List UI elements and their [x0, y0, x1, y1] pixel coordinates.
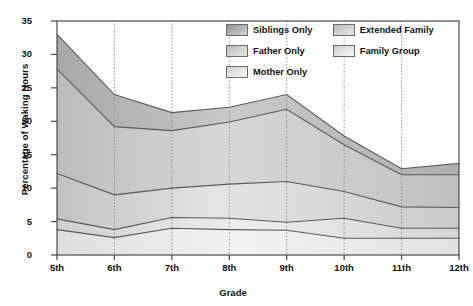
legend-swatch-siblings-only	[226, 24, 248, 36]
legend-swatch-father-only	[226, 45, 248, 57]
y-tick-label-10: 10	[8, 182, 32, 193]
chart-legend: Siblings Only Father Only Mother Only Ex…	[226, 20, 448, 82]
y-tick-label-0: 0	[8, 249, 32, 260]
legend-label-father-only: Father Only	[253, 46, 305, 56]
legend-label-family-group: Family Group	[360, 46, 420, 56]
legend-label-extended-family: Extended Family	[360, 25, 434, 35]
legend-item-family-group: Family Group	[333, 41, 448, 62]
y-tick-label-20: 20	[8, 115, 32, 126]
legend-item-father-only: Father Only	[226, 41, 327, 62]
x-tick-label-9th: 9th	[267, 262, 307, 273]
legend-label-siblings-only: Siblings Only	[253, 25, 312, 35]
x-tick-marks	[57, 255, 459, 260]
x-tick-label-7th: 7th	[152, 262, 192, 273]
x-tick-label-11th: 11th	[382, 262, 422, 273]
legend-item-extended-family: Extended Family	[333, 20, 448, 41]
x-tick-label-10th: 10th	[324, 262, 364, 273]
x-tick-label-5th: 5th	[37, 262, 77, 273]
legend-item-siblings-only: Siblings Only	[226, 20, 327, 41]
y-tick-marks	[51, 21, 57, 255]
y-tick-label-35: 35	[8, 15, 32, 26]
x-tick-label-12th: 12th	[439, 262, 473, 273]
legend-label-mother-only: Mother Only	[253, 67, 307, 77]
y-tick-label-15: 15	[8, 149, 32, 160]
x-axis-label: Grade	[0, 287, 466, 298]
legend-swatch-family-group	[333, 45, 355, 57]
legend-swatch-mother-only	[226, 66, 248, 78]
legend-item-mother-only: Mother Only	[226, 61, 327, 82]
legend-swatch-extended-family	[333, 24, 355, 36]
x-tick-label-8th: 8th	[209, 262, 249, 273]
y-tick-label-25: 25	[8, 82, 32, 93]
y-tick-label-30: 30	[8, 48, 32, 59]
x-tick-label-6th: 6th	[94, 262, 134, 273]
y-tick-label-5: 5	[8, 216, 32, 227]
